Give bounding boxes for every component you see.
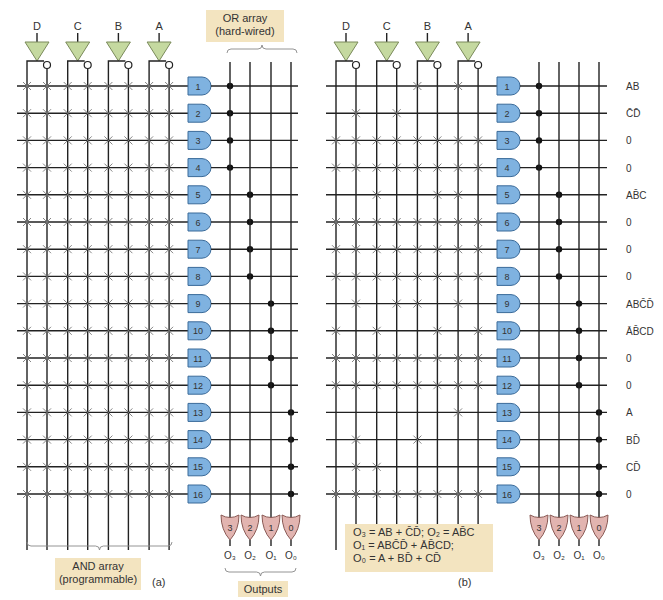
and-gate-number: 10 [193,326,203,336]
true-line [68,61,85,550]
product-term-label: 0 [626,380,632,391]
input-label-A: A [155,20,163,32]
and-gate-number: 7 [504,245,509,255]
and-gate-number: 2 [504,109,509,119]
or-gate-number: 0 [596,523,601,533]
equations-box: O₃ = AB + C̄D̄; O₂ = AB̄C O₁ = ABC̄D̄ + … [345,524,493,572]
equation-line: O₃ = AB + C̄D̄; O₂ = AB̄C [353,526,493,539]
or-gate-number: 2 [556,523,561,533]
buffer-icon [25,42,49,61]
product-term-label: 0 [626,135,632,146]
and-gate-number: 8 [195,272,200,282]
inverter-bubble-icon [44,62,51,69]
product-term-label: 0 [626,163,632,174]
product-term-label: ĀB̄CD [626,325,654,337]
and-gate-number: 16 [193,490,203,500]
true-line [458,61,475,550]
inverter-bubble-icon [84,62,91,69]
true-line [417,61,434,550]
inverter-bubble-icon [434,62,441,69]
input-label-C: C [74,20,82,32]
or-gate-number: 1 [576,523,581,533]
and-gate-number: 15 [502,462,512,472]
outputs-label: Outputs [238,581,288,597]
or-gate-number: 1 [268,523,273,533]
and-gate-number: 6 [504,218,509,228]
inverter-bubble-icon [475,62,482,69]
true-line [336,61,353,550]
product-term-label: 0 [626,271,632,282]
and-gate-number: 8 [504,272,509,282]
product-term-label: 0 [626,353,632,364]
and-gate-number: 9 [195,299,200,309]
caption-b: (b) [458,576,471,588]
buffer-icon [456,42,480,61]
output-label: O₀ [593,550,605,561]
input-label-C: C [383,20,391,32]
buffer-icon [147,42,171,61]
buffer-icon [415,42,439,61]
or-gate-number: 3 [536,523,541,533]
product-term-label: 0 [626,244,632,255]
buffer-icon [334,42,358,61]
buffer-icon [66,42,90,61]
caption-a: (a) [152,576,165,588]
input-label-D: D [33,20,41,32]
outputs-brace [225,568,296,576]
output-label: O₃ [533,550,545,561]
input-label-D: D [342,20,350,32]
and-gate-number: 14 [502,435,512,445]
and-gate-number: 10 [502,326,512,336]
and-gate-number: 5 [504,190,509,200]
and-gate-number: 9 [504,299,509,309]
product-term-label: CD̄ [626,461,640,473]
buffer-icon [106,42,130,61]
and-gate-number: 7 [195,245,200,255]
and-gate-number: 11 [193,354,202,364]
and-gate-number: 5 [195,190,200,200]
product-term-label: AB̄C [626,189,647,201]
buffer-icon [375,42,399,61]
true-line [108,61,125,550]
output-label: O₂ [553,550,565,561]
and-gate-number: 16 [502,490,512,500]
pla-panel [326,33,608,550]
and-gate-number: 14 [193,435,203,445]
product-term-label: C̄D̄ [626,108,640,120]
and-gate-number: 3 [504,136,509,146]
and-gate-number: 1 [195,82,200,92]
pla-panel [17,33,300,550]
and-array-brace [27,542,172,550]
and-gate-number: 13 [193,408,203,418]
and-gate-number: 4 [504,163,509,173]
or-gate-number: 0 [288,523,293,533]
and-gate-number: 2 [195,109,200,119]
output-label: O₁ [265,550,277,561]
equation-line: O₁ = ABC̄D̄ + ĀB̄CD; [353,539,493,552]
and-gate-number: 4 [195,163,200,173]
and-gate-number: 6 [195,218,200,228]
and-gate-number: 3 [195,136,200,146]
output-label: O₀ [285,550,297,561]
true-line [377,61,394,550]
input-label-A: A [464,20,472,32]
or-array-brace [227,45,297,53]
and-array-label: AND array (programmable) [55,558,141,590]
and-gate-number: 11 [502,354,511,364]
inverter-bubble-icon [125,62,132,69]
output-label: O₂ [244,550,256,561]
or-gate-number: 3 [227,523,232,533]
and-gate-number: 15 [193,462,203,472]
pla-circuit-svg: DCBA123456789101112131415163O₃2O₂1O₁0O₀D… [0,0,663,600]
product-term-label: BD̄ [626,434,640,446]
true-line [27,61,44,550]
output-label: O₃ [224,550,236,561]
and-gate-number: 12 [193,381,203,391]
product-term-label: 0 [626,217,632,228]
inverter-bubble-icon [166,62,173,69]
pla-diagram: DCBA123456789101112131415163O₃2O₂1O₁0O₀D… [0,0,663,600]
and-gate-number: 1 [504,82,509,92]
and-gate-number: 13 [502,408,512,418]
product-term-label: AB [626,81,640,92]
inverter-bubble-icon [353,62,360,69]
